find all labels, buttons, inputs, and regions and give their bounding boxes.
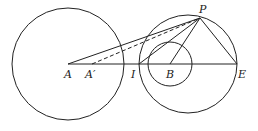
line-a-p	[68, 18, 200, 64]
label-a: A	[63, 68, 72, 81]
geometry-diagram: A A′ I B E P	[0, 0, 258, 131]
label-b: B	[165, 68, 174, 81]
label-e: E	[237, 68, 246, 81]
label-i: I	[130, 68, 136, 81]
label-a-prime: A′	[84, 68, 96, 81]
label-p: P	[198, 3, 207, 16]
